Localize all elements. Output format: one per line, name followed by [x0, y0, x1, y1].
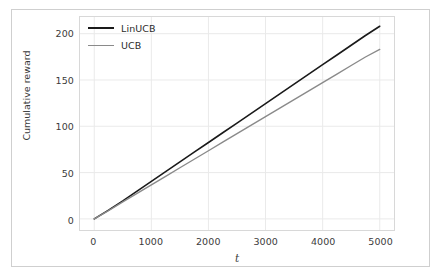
y-tick-label: 50 [62, 168, 74, 179]
x-tick-label: 5000 [368, 236, 393, 247]
series-line-ucb [94, 49, 379, 218]
y-tick-label: 200 [56, 27, 74, 38]
y-tick-label: 150 [56, 74, 74, 85]
legend-line-swatch [88, 45, 114, 46]
y-tick-label: 0 [68, 214, 74, 225]
y-axis-tick-labels: 050100150200 [40, 16, 74, 231]
y-axis-label: Cumulative reward [21, 26, 32, 166]
legend-label: LinUCB [121, 23, 156, 34]
series-line-linucb [94, 26, 379, 219]
x-tick-label: 1000 [139, 236, 164, 247]
legend-label: UCB [121, 40, 141, 51]
x-tick-label: 0 [90, 236, 96, 247]
x-axis-label: t [79, 252, 395, 264]
x-axis-tick-labels: 010002000300040005000 [79, 236, 395, 250]
legend-entry: UCB [88, 39, 156, 51]
legend-entry: LinUCB [88, 22, 156, 34]
legend-line-swatch [88, 27, 114, 29]
x-tick-label: 4000 [311, 236, 336, 247]
x-tick-label: 3000 [253, 236, 278, 247]
chart-figure: Cumulative reward 050100150200 010002000… [0, 0, 441, 277]
chart-legend: LinUCBUCB [84, 20, 160, 53]
x-tick-label: 2000 [196, 236, 221, 247]
y-tick-label: 100 [56, 121, 74, 132]
